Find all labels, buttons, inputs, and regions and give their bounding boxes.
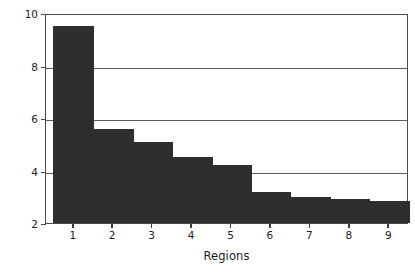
- plot-area: [45, 14, 408, 224]
- bar: [172, 157, 213, 223]
- x-tick-mark: [111, 224, 113, 228]
- bar: [290, 197, 331, 223]
- x-tick-mark: [269, 224, 271, 228]
- x-tick-mark: [190, 224, 192, 228]
- x-tick-mark: [348, 224, 350, 228]
- x-tick-label: 2: [100, 229, 124, 241]
- x-tick-label: 4: [179, 229, 203, 241]
- y-tick-mark: [41, 172, 46, 173]
- bar: [53, 26, 94, 223]
- bar: [369, 201, 410, 223]
- x-tick-label: 7: [297, 229, 321, 241]
- y-tick-mark: [41, 14, 46, 15]
- bar: [93, 129, 134, 224]
- y-tick-mark: [41, 224, 46, 225]
- x-tick-mark: [230, 224, 232, 228]
- y-tick-label: 4: [12, 167, 38, 177]
- bar: [329, 199, 370, 223]
- x-tick-mark: [72, 224, 74, 228]
- bar-chart-figure: Number of agencies consulted 246810 1234…: [0, 0, 415, 272]
- x-tick-label: 6: [258, 229, 282, 241]
- x-tick-mark: [151, 224, 153, 228]
- y-tick-mark: [41, 119, 46, 120]
- y-tick-label: 6: [12, 114, 38, 124]
- bar: [132, 142, 173, 223]
- y-tick-label: 8: [12, 62, 38, 72]
- y-tick-mark: [41, 67, 46, 68]
- x-tick-label: 3: [140, 229, 164, 241]
- x-tick-mark: [309, 224, 311, 228]
- bar: [250, 192, 291, 224]
- x-tick-label: 5: [219, 229, 243, 241]
- x-tick-label: 1: [61, 229, 85, 241]
- y-tick-label: 10: [12, 9, 38, 19]
- bar: [211, 165, 252, 223]
- x-tick-mark: [387, 224, 389, 228]
- x-tick-label: 8: [337, 229, 361, 241]
- bars-layer: [46, 15, 407, 223]
- x-axis-title: Regions: [45, 249, 408, 263]
- x-tick-label: 9: [376, 229, 400, 241]
- y-tick-label: 2: [12, 219, 38, 229]
